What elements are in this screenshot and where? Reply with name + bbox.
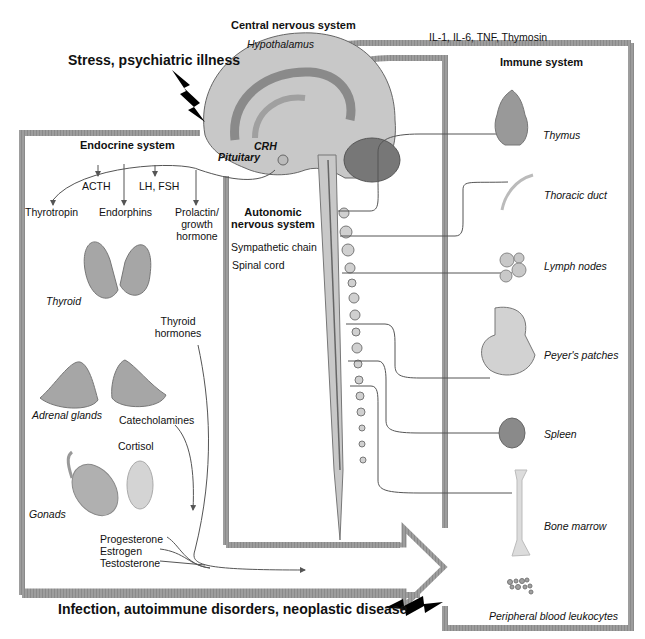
lh-fsh-label: LH, FSH: [139, 180, 179, 192]
thyroid-illustration: [84, 242, 151, 298]
thoracic-duct-label: Thoracic duct: [544, 189, 607, 201]
infection-heading: Infection, autoimmune disorders, neoplas…: [58, 603, 407, 615]
bone-marrow-label: Bone marrow: [544, 520, 606, 532]
lymph-nodes-illustration: [500, 253, 526, 282]
autonomic-nervous-system-heading: Autonomic nervous system: [231, 206, 315, 230]
prolactin-growth-hormone-label: Prolactin/ growth hormone: [172, 206, 222, 242]
cns-heading: Central nervous system: [231, 19, 356, 31]
diagram-canvas: [0, 0, 645, 639]
thyrotropin-label: Thyrotropin: [25, 206, 78, 218]
immune-system-heading: Immune system: [500, 56, 583, 68]
gonads-illustration: [63, 452, 153, 524]
leukocytes-illustration: [508, 578, 534, 594]
spinal-cord-label: Spinal cord: [232, 259, 285, 271]
progesterone-label: Progesterone: [100, 533, 163, 545]
endocrine-system-heading: Endocrine system: [80, 139, 175, 151]
cytokines-label: IL-1, IL-6, TNF, Thymosin: [429, 31, 547, 43]
acth-label: ACTH: [82, 180, 111, 192]
hormone-flow-lines: [160, 345, 305, 570]
endorphins-label: Endorphins: [99, 206, 152, 218]
catecholamines-label: Catecholamines: [119, 414, 194, 426]
estrogen-label: Estrogen: [100, 545, 142, 557]
spleen-illustration: [499, 418, 525, 448]
testosterone-label: Testosterone: [100, 557, 160, 569]
peripheral-blood-leukocytes-label: Peripheral blood leukocytes: [489, 610, 618, 622]
spleen-label: Spleen: [544, 428, 577, 440]
hypothalamus-label: Hypothalamus: [247, 38, 314, 50]
thymus-illustration: [495, 90, 528, 145]
thoracic-duct-illustration: [502, 175, 533, 210]
peyers-patches-label: Peyer's patches: [544, 349, 618, 361]
adrenal-glands-label: Adrenal glands: [32, 409, 102, 421]
thyroid-hormones-label: Thyroid hormones: [150, 315, 206, 339]
sympathetic-chain-label: Sympathetic chain: [231, 241, 317, 253]
bone-marrow-illustration: [512, 470, 530, 556]
lymph-nodes-label: Lymph nodes: [544, 260, 607, 272]
thyroid-label: Thyroid: [46, 295, 81, 307]
stress-lightning-icon: [172, 70, 205, 122]
stress-heading: Stress, psychiatric illness: [68, 54, 240, 66]
nerve-connectors: [338, 134, 520, 493]
sympathetic-chain: [339, 208, 366, 463]
adrenal-illustration: [40, 360, 166, 408]
gonads-label: Gonads: [29, 508, 66, 520]
thymus-label: Thymus: [543, 129, 580, 141]
cortisol-label: Cortisol: [118, 440, 154, 452]
pituitary-label: Pituitary: [218, 151, 260, 163]
peyers-patches-illustration: [482, 307, 535, 375]
